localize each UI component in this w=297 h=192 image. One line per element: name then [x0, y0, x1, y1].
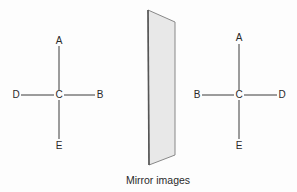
mirror-left-edge	[148, 10, 149, 165]
figure-caption: Mirror images	[126, 174, 190, 186]
diagram-graphics	[0, 0, 297, 192]
left-label-center: C	[55, 90, 62, 100]
mirror-face	[148, 10, 175, 165]
left-label-right: B	[97, 90, 104, 100]
right-label-right: D	[278, 90, 285, 100]
left-label-bottom: E	[56, 141, 63, 151]
right-label-left: B	[194, 90, 201, 100]
right-label-top: A	[236, 33, 243, 43]
right-label-bottom: E	[236, 141, 243, 151]
mirror-plane	[148, 10, 175, 165]
left-label-left: D	[12, 90, 19, 100]
mirror-images-diagram: A C E D B A C E B D Mirror images	[0, 0, 297, 192]
right-label-center: C	[235, 90, 242, 100]
left-label-top: A	[56, 36, 63, 46]
